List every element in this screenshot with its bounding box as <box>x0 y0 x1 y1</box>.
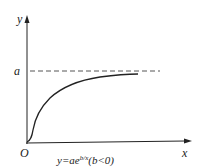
curve <box>27 74 138 142</box>
caption-lhs: y=ae <box>56 154 80 166</box>
x-axis-label: x <box>181 146 188 160</box>
y-axis-arrow-icon <box>25 15 30 23</box>
caption-condition: (b<0) <box>88 154 114 167</box>
x-axis-arrow-icon <box>184 139 192 144</box>
y-axis-label: y <box>16 12 23 26</box>
exponential-curve-diagram: y a O x y=aeb/x(b<0) <box>0 0 201 168</box>
origin-label: O <box>20 146 29 160</box>
asymptote-label: a <box>14 64 20 78</box>
x-axis <box>26 141 185 143</box>
caption: y=aeb/x(b<0) <box>56 154 114 167</box>
